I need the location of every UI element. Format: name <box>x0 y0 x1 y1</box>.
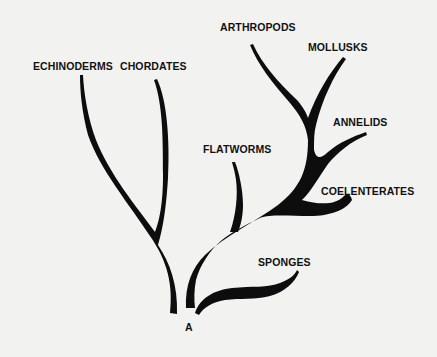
tree-branches <box>0 0 437 357</box>
label-arthropods: ARTHROPODS <box>220 21 296 33</box>
label-root-a: A <box>185 321 193 333</box>
label-flatworms: FLATWORMS <box>203 143 271 155</box>
branch-flatworms <box>230 162 243 232</box>
label-coelenterates: COELENTERATES <box>321 185 414 197</box>
label-echinoderms: ECHINODERMS <box>33 60 113 72</box>
label-chordates: CHORDATES <box>120 60 187 72</box>
label-sponges: SPONGES <box>258 256 311 268</box>
label-mollusks: MOLLUSKS <box>308 41 368 53</box>
phylogenetic-tree-diagram: ECHINODERMS CHORDATES ARTHROPODS MOLLUSK… <box>0 0 437 357</box>
label-annelids: ANNELIDS <box>333 116 387 128</box>
branch-left-trunk <box>80 75 177 314</box>
branch-right-trunk <box>186 44 367 308</box>
branch-sponges <box>195 270 299 315</box>
